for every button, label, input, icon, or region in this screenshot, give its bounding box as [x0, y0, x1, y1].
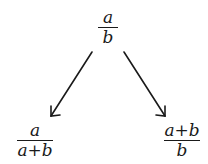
numerator: a	[28, 122, 42, 139]
denominator: a+b	[15, 142, 54, 159]
numerator: a+b	[162, 122, 201, 139]
fraction-a-over-a-plus-b: a a+b	[17, 122, 53, 159]
denominator: b	[175, 142, 190, 159]
numerator: a	[101, 9, 115, 26]
fraction-a-plus-b-over-b: a+b b	[164, 122, 200, 159]
fraction-a-over-b: a b	[98, 9, 118, 46]
arrow-to-left	[51, 52, 92, 116]
arrow-to-right	[124, 52, 165, 116]
denominator: b	[101, 29, 116, 46]
